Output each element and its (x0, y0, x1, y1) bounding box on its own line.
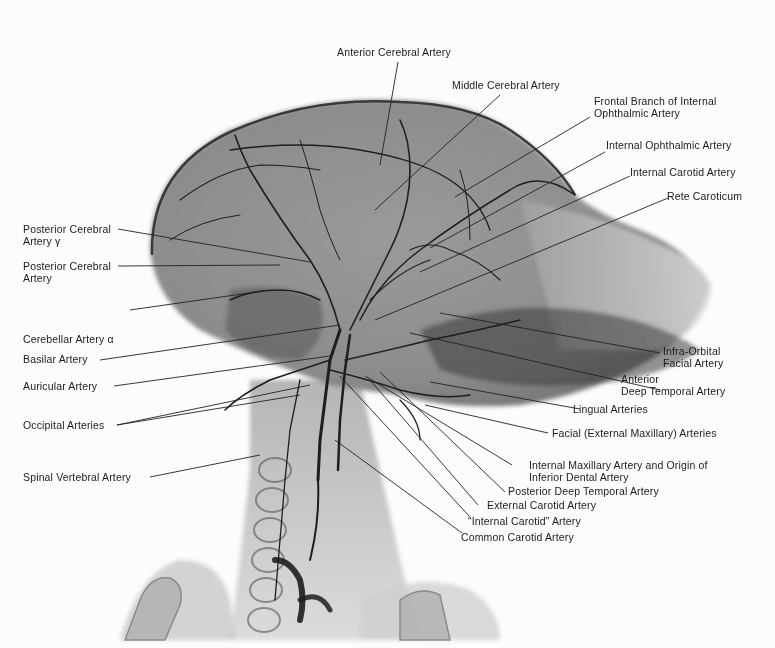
label-infra-orbital-facial-artery: Infra-Orbital Facial Artery (663, 345, 723, 369)
label-auricular-artery: Auricular Artery (23, 380, 97, 392)
label-cerebellar-artery-alpha: Cerebellar Artery α (23, 333, 114, 345)
label-occipital-arteries: Occipital Arteries (23, 419, 104, 431)
label-internal-ophthalmic-artery: Internal Ophthalmic Artery (606, 139, 731, 151)
label-internal-carotid-artery: Internal Carotid Artery (630, 166, 736, 178)
label-spinal-vertebral-artery: Spinal Vertebral Artery (23, 471, 131, 483)
label-internal-maxillary-artery: Internal Maxillary Artery and Origin of … (529, 459, 708, 483)
label-internal-carotid-quoted-artery: “Internal Carotid” Artery (468, 515, 581, 527)
label-posterior-cerebral-artery: Posterior Cerebral Artery (23, 260, 111, 284)
label-posterior-deep-temporal-artery: Posterior Deep Temporal Artery (508, 485, 659, 497)
label-rete-caroticum: Rete Caroticum (667, 190, 742, 202)
angiograph-figure: Anterior Cerebral Artery Middle Cerebral… (0, 0, 775, 648)
label-external-carotid-artery: External Carotid Artery (487, 499, 596, 511)
label-anterior-deep-temporal-artery: Anterior Deep Temporal Artery (621, 373, 725, 397)
label-anterior-cerebral-artery: Anterior Cerebral Artery (337, 46, 451, 58)
label-facial-external-maxillary-arteries: Facial (External Maxillary) Arteries (552, 427, 717, 439)
label-middle-cerebral-artery: Middle Cerebral Artery (452, 79, 560, 91)
label-lingual-arteries: Lingual Arteries (573, 403, 648, 415)
label-posterior-cerebral-artery-gamma: Posterior Cerebral Artery γ (23, 223, 111, 247)
label-common-carotid-artery: Common Carotid Artery (461, 531, 574, 543)
label-basilar-artery: Basilar Artery (23, 353, 88, 365)
label-frontal-branch-internal-ophthalmic-artery: Frontal Branch of Internal Ophthalmic Ar… (594, 95, 716, 119)
